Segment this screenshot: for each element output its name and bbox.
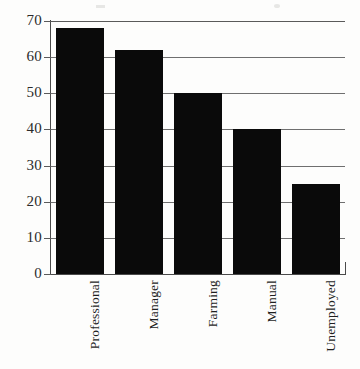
bar-farming [174,93,222,274]
bar-chart-figure: 010203040506070 ProfessionalManagerFarmi… [0,0,360,369]
scan-artifact [274,4,280,8]
scan-artifact [96,5,105,8]
bar-professional [56,28,104,274]
y-tick-mark-10 [44,238,51,239]
y-tick-label-30: 30 [0,157,42,174]
y-tick-mark-60 [44,57,51,58]
y-tick-label-70: 70 [0,12,42,29]
y-tick-label-60: 60 [0,48,42,65]
x-tick-label-manual: Manual [264,280,280,322]
y-tick-label-50: 50 [0,84,42,101]
y-tick-mark-20 [44,202,51,203]
y-tick-mark-0 [44,274,51,275]
x-tick-label-farming: Farming [205,280,221,327]
x-tick-label-professional: Professional [87,280,103,349]
x-axis-right-cap [345,262,346,275]
y-tick-label-10: 10 [0,229,42,246]
y-tick-mark-40 [44,129,51,130]
y-tick-mark-30 [44,166,51,167]
y-tick-label-20: 20 [0,193,42,210]
x-tick-label-unemployed: Unemployed [323,280,339,352]
y-tick-label-0: 0 [0,265,42,282]
y-tick-mark-70 [44,21,51,22]
bar-manual [233,129,281,274]
bar-manager [115,50,163,274]
x-tick-label-manager: Manager [146,280,162,329]
plot-area [51,21,345,274]
y-tick-mark-50 [44,93,51,94]
x-axis-line [50,274,346,275]
y-tick-label-40: 40 [0,120,42,137]
bar-unemployed [292,184,340,274]
